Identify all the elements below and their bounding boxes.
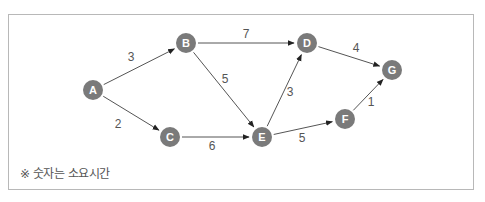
edge-E-D [267,55,301,126]
edge-A-B [104,49,175,85]
node-E: E [252,127,272,147]
node-B: B [176,33,196,53]
node-label: E [258,131,265,143]
node-label: F [342,113,349,125]
node-label: C [166,131,174,143]
legend-note: ※ 숫자는 소요시간 [20,164,110,181]
node-label: D [303,37,311,49]
edge-weight-label: 4 [353,41,360,55]
node-label: B [182,37,190,49]
node-D: D [297,33,317,53]
edge-B-E [194,52,254,127]
edge-weight-label: 5 [299,131,306,145]
edge-A-C [103,96,159,130]
edge-weight-label: 5 [222,72,229,86]
node-C: C [160,127,180,147]
node-label: A [89,84,97,96]
edge-weight-label: 1 [368,95,375,109]
edge-weight-label: 3 [287,85,294,99]
node-F: F [335,109,355,129]
edge-weight-label: 6 [209,139,216,153]
edge-weight-label: 2 [115,117,122,131]
edge-D-G [318,47,379,66]
node-label: G [388,64,397,76]
edge-weight-label: 3 [128,50,135,64]
node-A: A [83,80,103,100]
edge-weight-label: 7 [243,27,250,41]
node-G: G [382,60,402,80]
